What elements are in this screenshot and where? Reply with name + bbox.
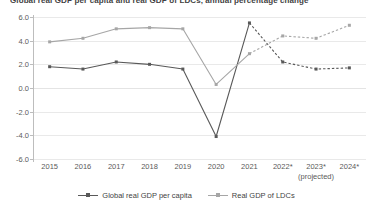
legend-item-global-gdp-per-capita: Global real GDP per capita bbox=[78, 191, 192, 200]
data-point-marker bbox=[281, 60, 284, 63]
data-point-marker bbox=[48, 65, 51, 68]
series-line-actual-1 bbox=[50, 28, 250, 85]
data-point-marker bbox=[181, 68, 184, 71]
y-axis-tick-mark bbox=[30, 88, 34, 89]
legend-label: Real GDP of LDCs bbox=[232, 191, 295, 200]
legend-swatch-light-icon bbox=[208, 191, 228, 199]
data-point-marker bbox=[348, 66, 351, 69]
data-point-marker bbox=[281, 34, 284, 37]
data-point-marker bbox=[215, 135, 218, 138]
legend-item-real-gdp-ldcs: Real GDP of LDCs bbox=[208, 191, 295, 200]
data-point-marker bbox=[315, 68, 318, 71]
series-line-projected-0 bbox=[249, 23, 349, 69]
data-point-marker bbox=[315, 37, 318, 40]
y-axis-tick-mark bbox=[30, 17, 34, 18]
legend-swatch-solid-icon bbox=[78, 191, 98, 199]
data-point-marker bbox=[81, 68, 84, 71]
y-axis-tick-mark bbox=[30, 159, 34, 160]
data-point-marker bbox=[181, 27, 184, 30]
data-point-marker bbox=[215, 83, 218, 86]
data-point-marker bbox=[348, 24, 351, 27]
chart-legend: Global real GDP per capita Real GDP of L… bbox=[0, 188, 373, 202]
data-point-marker bbox=[148, 26, 151, 29]
y-axis-tick-mark bbox=[30, 135, 34, 136]
series-line-projected-1 bbox=[249, 25, 349, 53]
chart-container: Global real GDP per capita and real GDP … bbox=[0, 0, 373, 204]
y-axis-tick-mark bbox=[30, 112, 34, 113]
series-line-actual-0 bbox=[50, 23, 250, 137]
y-axis-tick-mark bbox=[30, 41, 34, 42]
data-point-marker bbox=[115, 60, 118, 63]
data-point-marker bbox=[48, 40, 51, 43]
data-point-marker bbox=[81, 37, 84, 40]
data-point-marker bbox=[148, 63, 151, 66]
legend-label: Global real GDP per capita bbox=[102, 191, 192, 200]
data-point-marker bbox=[248, 21, 251, 24]
series-layer bbox=[0, 0, 373, 204]
y-axis-tick-mark bbox=[30, 64, 34, 65]
data-point-marker bbox=[248, 52, 251, 55]
data-point-marker bbox=[115, 27, 118, 30]
